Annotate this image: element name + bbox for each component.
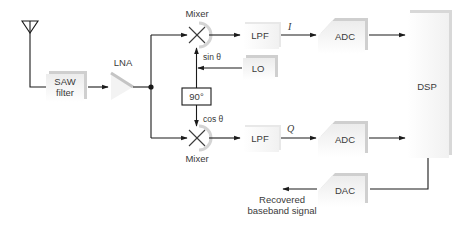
saw-filter-label-line1: SAW [54, 76, 75, 87]
lpf-q-label: LPF [251, 133, 269, 144]
dsp-block: DSP [407, 10, 452, 158]
adc-q-label: ADC [335, 134, 355, 145]
output-label-line2: baseband signal [247, 205, 316, 216]
mixer-i-label: Mixer [185, 8, 208, 19]
lo-block: LO [243, 55, 278, 80]
dsp-to-dac-wire [370, 158, 428, 189]
lpf-q-block: LPF [243, 125, 281, 152]
phase-shifter-block: 90° [182, 88, 211, 105]
dac-label: DAC [335, 185, 355, 196]
saw-filter-block: SAW filter [46, 71, 87, 102]
dac-block: DAC [318, 173, 368, 207]
mixer-q-block: Mixer [185, 126, 211, 164]
iq-receiver-diagram: SAW filter LNA Mixer Mixer 90° sin θ cos… [0, 0, 468, 226]
antenna-to-saw-wire [30, 33, 46, 87]
lpf-i-label: LPF [251, 30, 269, 41]
antenna-icon [22, 21, 38, 33]
lpf-i-block: LPF [243, 22, 281, 49]
mixer-q-label: Mixer [185, 153, 208, 164]
output-label-line1: Recovered [259, 194, 305, 205]
mixer-i-block: Mixer [185, 8, 211, 47]
adc-q-block: ADC [318, 121, 368, 157]
i-signal-label: I [287, 21, 292, 32]
phase-shifter-label: 90° [189, 91, 204, 102]
lna-label: LNA [114, 57, 133, 68]
q-signal-label: Q [287, 123, 295, 134]
lo-label: LO [252, 63, 265, 74]
sin-theta-label: sin θ [203, 52, 221, 62]
saw-filter-label-line2: filter [56, 87, 74, 98]
lna-block: LNA [111, 57, 133, 100]
cos-theta-label: cos θ [203, 114, 224, 124]
adc-i-label: ADC [335, 31, 355, 42]
dsp-label: DSP [417, 81, 437, 92]
adc-i-block: ADC [318, 18, 368, 54]
